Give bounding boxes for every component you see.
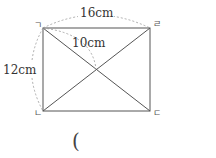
answer-paren: (	[72, 129, 80, 153]
label-half-diagonal: 10cm	[72, 36, 106, 50]
vertex-bottom-right: ㄷ	[153, 108, 161, 118]
vertex-top-left: ㄱ	[34, 20, 42, 30]
rectangle-diagram: 16cm 12cm 10cm ㄱ ㄹ ㄴ ㄷ (	[0, 0, 216, 158]
vertex-bottom-left: ㄴ	[34, 108, 42, 118]
vertex-top-right: ㄹ	[153, 19, 161, 29]
label-left-side: 12cm	[3, 63, 37, 77]
label-top-side: 16cm	[80, 6, 114, 20]
